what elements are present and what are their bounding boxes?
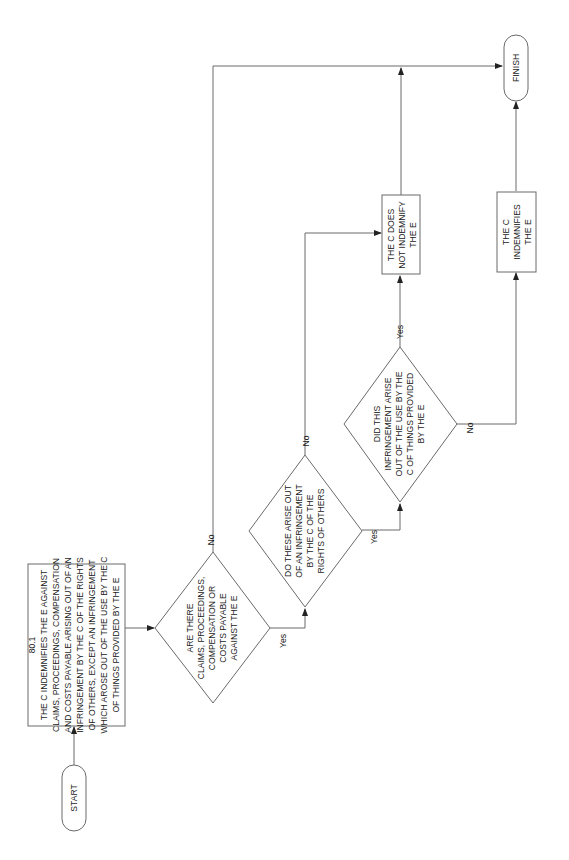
rule-80-1-box: 80.1 THE C INDEMNIFIES THE E AGAINST CLA… (27, 557, 125, 734)
decision3-line-4: BY THE E (416, 404, 426, 443)
rule-line-1: THE C INDEMNIFIES THE E AGAINST (39, 569, 49, 720)
decision1-yes-label: Yes (278, 634, 288, 648)
decision1-line-0: ARE THERE (185, 603, 195, 652)
not-indemnify-line-2: THE E (408, 222, 418, 248)
decision1-diamond: ARE THERE CLAIMS, PROCEEDINGS, COMPENSAT… (155, 534, 288, 703)
finish-terminal: FINISH (504, 35, 528, 101)
indemnifies-line-1: INDEMNIFIES (512, 204, 522, 260)
decision3-line-1: INFRINGEMENT ARISE (383, 377, 393, 470)
rule-line-5: OF OTHERS, EXCEPT AN INFRINGEMENT (87, 559, 97, 731)
decision2-yes-label: Yes (369, 530, 379, 544)
edge-decision3-no-to-indemnifies (457, 273, 516, 424)
decision3-yes-label: Yes (395, 325, 405, 339)
rule-line-7: OF THINGS PROVIDED BY THE E (111, 577, 121, 712)
decision3-diamond: DID THIS INFRINGEMENT ARISE OUT OF THE U… (344, 325, 475, 502)
decision3-line-2: OUT OF THE USE BY THE (394, 371, 404, 476)
finish-label: FINISH (511, 54, 521, 82)
decision3-line-3: C OF THINGS PROVIDED (405, 373, 415, 476)
decision1-line-2: COMPENSATION OR (207, 586, 217, 670)
indemnifies-line-2: THE E (523, 219, 533, 245)
decision2-line-2: BY THE C OF THE (305, 494, 315, 567)
decision1-line-3: COSTS PAYABLE (218, 593, 228, 663)
edge-decision2-yes-to-decision3 (362, 504, 400, 530)
not-indemnify-line-1: NOT INDEMNIFY (397, 201, 407, 269)
flowchart-canvas: START 80.1 THE C INDEMNIFIES THE E AGAIN… (0, 0, 569, 860)
start-label: START (69, 784, 79, 812)
not-indemnify-box: THE C DOES NOT INDEMNIFY THE E (382, 195, 420, 274)
rule-line-3: AND COSTS PAYABLE ARISING OUT OF AN (63, 557, 73, 733)
decision1-no-label: No (206, 534, 216, 545)
rule-line-6: WHICH AROSE OUT OF THE USE BY THE C (99, 557, 109, 734)
edge-decision1-yes-to-decision2 (270, 609, 305, 628)
decision2-line-1: OF AN INFRINGEMENT (294, 483, 304, 577)
decision2-diamond: DO THESE ARISE OUT OF AN INFRINGEMENT BY… (249, 435, 379, 607)
decision2-line-0: DO THESE ARISE OUT (283, 484, 293, 577)
indemnifies-box: THE C INDEMNIFIES THE E (497, 192, 536, 272)
decision3-no-label: No (465, 422, 475, 433)
start-terminal: START (62, 765, 86, 831)
decision2-line-3: RIGHTS OF OTHERS (316, 488, 326, 573)
indemnifies-line-0: THE C (501, 219, 511, 245)
decision1-line-1: CLAIMS, PROCEEDINGS, (196, 577, 206, 680)
decision2-no-label: No (301, 435, 311, 446)
not-indemnify-line-0: THE C DOES (386, 208, 396, 261)
rule-line-2: CLAIMS, PROCEEDINGS, COMPENSATION (51, 558, 61, 732)
rule-line-4: INFRINGEMENT BY THE C OF THE RIGHTS (75, 557, 85, 733)
decision3-line-0: DID THIS (372, 405, 382, 442)
edge-decision1-no-to-finish (213, 66, 502, 552)
rule-line-0: 80.1 (27, 636, 37, 653)
decision1-line-4: AGAINST THE E (229, 595, 239, 660)
